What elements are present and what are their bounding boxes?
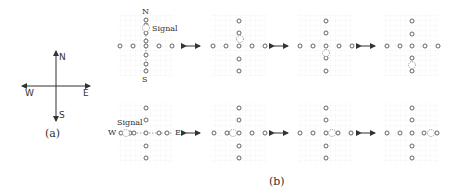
top-signal-label: Signal bbox=[152, 24, 178, 33]
caption-b: (b) bbox=[269, 175, 285, 188]
signal-sequence-diagram bbox=[0, 0, 457, 196]
bottom-west-label: W bbox=[108, 128, 116, 137]
bottom-east-label: E bbox=[175, 128, 181, 137]
bottom-signal-label: Signal bbox=[117, 118, 143, 127]
grid-backgrounds bbox=[118, 14, 439, 164]
top-north-label: N bbox=[142, 7, 149, 16]
top-south-label: S bbox=[142, 75, 147, 84]
